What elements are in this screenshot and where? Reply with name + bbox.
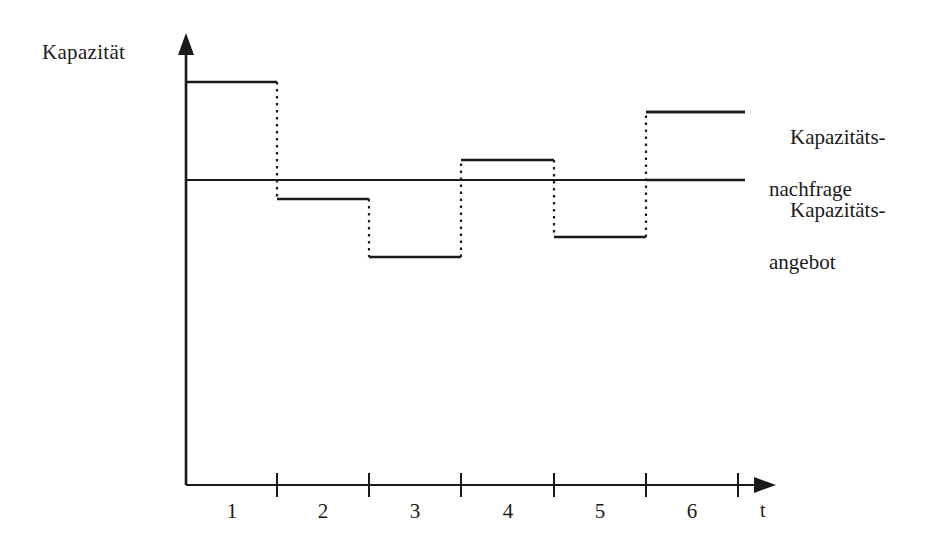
legend-sample-lines: [646, 112, 745, 180]
y-axis-arrowhead: [178, 33, 194, 55]
capacity-demand-risers: [277, 82, 646, 257]
x-tick-label-6: 6: [672, 499, 712, 524]
x-tick-label-4: 4: [488, 499, 528, 524]
x-tick-label-1: 1: [212, 499, 252, 524]
legend-entry-supply-line2: angebot: [769, 249, 886, 275]
legend-entry-demand-line1: Kapazitäts-: [790, 125, 886, 149]
x-axis-label: t: [760, 499, 766, 522]
x-tick-label-2: 2: [303, 499, 343, 524]
y-axis-label: Kapazität: [42, 40, 125, 65]
chart-figure: Kapazität t 1 2 3 4 5 6 Kapazitäts- nach…: [0, 0, 931, 545]
x-tick-label-5: 5: [580, 499, 620, 524]
legend-entry-capacity-supply: Kapazitäts- angebot: [769, 171, 886, 327]
x-axis-arrowhead: [754, 477, 776, 493]
capacity-demand-plateaus: [186, 82, 745, 257]
x-tick-label-3: 3: [395, 499, 435, 524]
legend-entry-supply-line1: Kapazitäts-: [790, 198, 886, 222]
